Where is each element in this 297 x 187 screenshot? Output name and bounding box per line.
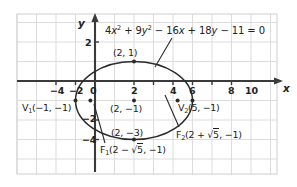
x-tick-label-8: 8 [228, 86, 234, 96]
point-vertex-left [74, 99, 78, 103]
equation-coef-x: 16 [166, 25, 179, 36]
x-axis-arrow [274, 77, 283, 84]
equation-sup-2b: 2 [148, 24, 152, 32]
label-focus-right: F2(2 + √5, −1) [176, 130, 242, 140]
vertex-left-subscript: 1 [28, 107, 32, 115]
point-focus-left [88, 99, 92, 103]
focus-left-open: (2 − [109, 144, 131, 155]
x-tick-label-2: 2 [131, 86, 137, 96]
label-vertex-right: V2(5, −1) [178, 103, 219, 113]
label-top-covertex: (2, 1) [113, 48, 137, 58]
focus-left-subscript: 1 [105, 149, 109, 157]
x-tick-label-10: 10 [245, 86, 258, 96]
y-tick-label-2: 2 [85, 38, 91, 48]
ellipse-equation: 4x2 + 9y2 − 16x + 18y − 11 = 0 [105, 26, 265, 36]
equation-plus-1: + [121, 25, 135, 36]
focus-right-open: (2 + [185, 129, 207, 140]
ellipse-graph-figure: y x −4 −2 0 2 4 6 8 10 2 −2 −4 4x2 + 9y2… [0, 0, 297, 187]
x-axis-label: x [283, 83, 290, 94]
x-tick-label-neg2: −2 [69, 86, 83, 96]
vertex-left-coords: (−1, −1) [32, 102, 71, 113]
y-tick-label-neg2: −2 [82, 114, 96, 124]
equation-minus-1: − [152, 25, 166, 36]
equation-var-y: y [142, 25, 148, 36]
x-tick-label-0: 0 [90, 86, 96, 96]
x-tick-label-6: 6 [189, 86, 195, 96]
y-axis-label: y [78, 18, 85, 29]
x-tick-label-4: 4 [170, 86, 176, 96]
equation-plus-2: + [185, 25, 199, 36]
vertex-right-subscript: 2 [184, 107, 188, 115]
label-vertex-left: V1(−1, −1) [22, 103, 71, 113]
equation-constant: 11 [232, 25, 245, 36]
equation-minus-2: − [217, 25, 231, 36]
equation-sup-2a: 2 [117, 24, 121, 32]
focus-left-close: , −1) [143, 144, 165, 155]
equation-equals-zero: = 0 [244, 25, 265, 36]
y-tick-label-neg4: −4 [82, 135, 96, 145]
focus-right-subscript: 2 [181, 134, 185, 142]
label-focus-left: F1(2 − √5, −1) [100, 145, 166, 155]
x-tick-label-neg4: −4 [50, 86, 64, 96]
label-center: (2, −1) [110, 104, 142, 114]
point-center [132, 99, 136, 103]
equation-coef-y: 18 [199, 25, 212, 36]
label-bottom-covertex: (2, −3) [111, 128, 143, 138]
vertex-right-coords: (5, −1) [188, 102, 219, 113]
point-top-covertex [132, 60, 136, 64]
point-bottom-covertex [132, 138, 136, 142]
focus-right-close: , −1) [219, 129, 241, 140]
